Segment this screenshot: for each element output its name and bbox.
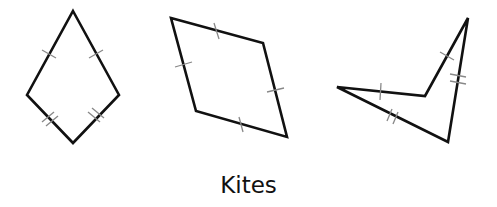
diagram-caption: Kites: [0, 172, 497, 198]
concave-kite-dart: [337, 18, 468, 142]
rhombus-kite: [171, 18, 287, 137]
convex-kite: [27, 11, 119, 143]
